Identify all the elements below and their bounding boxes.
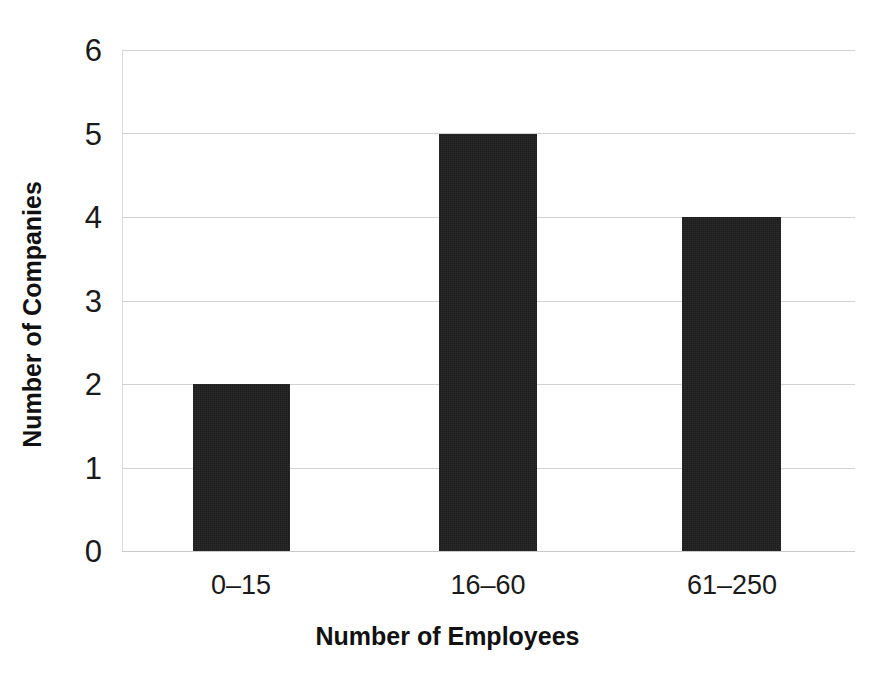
y-tick-label-6: 6 bbox=[42, 35, 102, 66]
y-tick-label-5: 5 bbox=[42, 119, 102, 150]
plot-area bbox=[122, 50, 855, 551]
x-tick-label-61-250: 61–250 bbox=[687, 572, 777, 599]
gridline-0 bbox=[122, 551, 855, 552]
y-tick-label-3: 3 bbox=[42, 286, 102, 317]
y-tick-label-2: 2 bbox=[42, 369, 102, 400]
y-tick-label-0: 0 bbox=[42, 536, 102, 567]
bar-0-15[interactable] bbox=[193, 384, 290, 551]
y-tick-label-4: 4 bbox=[42, 202, 102, 233]
x-tick-label-0-15: 0–15 bbox=[211, 572, 271, 599]
x-tick-label-16-60: 16–60 bbox=[450, 572, 525, 599]
bar-chart-figure: Number of Companies 6 5 4 3 2 1 0 0–15 1… bbox=[0, 0, 895, 691]
y-axis-tick-labels: 6 5 4 3 2 1 0 bbox=[40, 0, 102, 691]
bar-61-250[interactable] bbox=[682, 217, 781, 551]
x-axis-title: Number of Employees bbox=[0, 622, 895, 651]
gridline-6 bbox=[122, 50, 855, 51]
y-tick-label-1: 1 bbox=[42, 453, 102, 484]
bar-16-60[interactable] bbox=[439, 134, 537, 552]
